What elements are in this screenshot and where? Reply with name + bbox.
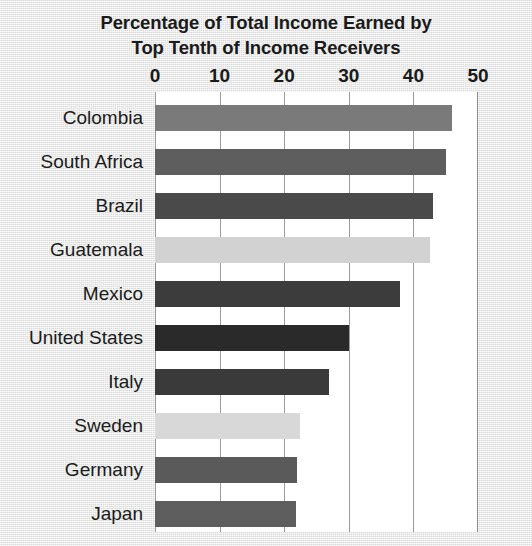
bar [155, 237, 430, 263]
x-tick-label: 20 [274, 64, 295, 88]
category-label: Japan [0, 492, 149, 536]
category-label: Italy [0, 360, 149, 404]
x-tick-label: 50 [467, 64, 488, 88]
category-label: Germany [0, 448, 149, 492]
bar [155, 325, 349, 351]
bar-row [155, 404, 477, 448]
bar [155, 281, 400, 307]
bar-row [155, 140, 477, 184]
x-tick-label: 30 [338, 64, 359, 88]
bar-row [155, 272, 477, 316]
bar [155, 413, 300, 439]
bar-row [155, 448, 477, 492]
category-label: Sweden [0, 404, 149, 448]
bar [155, 457, 297, 483]
bar-row [155, 492, 477, 536]
bar-row [155, 184, 477, 228]
category-label: South Africa [0, 140, 149, 184]
bar-row [155, 228, 477, 272]
category-label: United States [0, 316, 149, 360]
bar [155, 149, 446, 175]
category-label: Brazil [0, 184, 149, 228]
bar-row [155, 96, 477, 140]
category-label: Colombia [0, 96, 149, 140]
bar [155, 369, 329, 395]
y-axis-category-labels: ColombiaSouth AfricaBrazilGuatemalaMexic… [0, 92, 149, 532]
bar [155, 105, 452, 131]
chart-title: Percentage of Total Income Earned by Top… [0, 10, 532, 60]
bar [155, 501, 296, 527]
x-tick-label: 0 [150, 64, 161, 88]
category-label: Guatemala [0, 228, 149, 272]
chart-figure: Percentage of Total Income Earned by Top… [0, 0, 532, 546]
plot-area [155, 92, 478, 532]
chart-title-line-2: Top Tenth of Income Receivers [0, 35, 532, 60]
bar-row [155, 360, 477, 404]
x-tick-label: 10 [209, 64, 230, 88]
bar-row [155, 316, 477, 360]
x-axis-tick-labels: 01020304050 [155, 64, 478, 90]
x-tick-label: 40 [403, 64, 424, 88]
bar [155, 193, 433, 219]
category-label: Mexico [0, 272, 149, 316]
chart-title-line-1: Percentage of Total Income Earned by [0, 10, 532, 35]
